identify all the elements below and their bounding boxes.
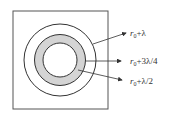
- label-middle: r0+3λ/4: [130, 56, 158, 67]
- inner-circle: [43, 43, 77, 77]
- ring-diagram: r0+λ r0+3λ/4 r0+λ/2: [0, 0, 176, 120]
- label-inner: r0+λ/2: [130, 76, 153, 87]
- label-outer: r0+λ: [130, 28, 147, 39]
- arrow-outer: [93, 33, 126, 44]
- arrow-inner: [78, 70, 122, 80]
